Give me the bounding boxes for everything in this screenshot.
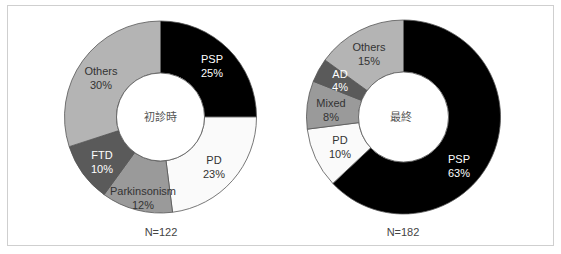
right-n-label: N=182	[387, 226, 420, 238]
right-mixed-name: Mixed	[316, 97, 345, 109]
left-parkinsonism-pct: 12%	[132, 199, 154, 211]
left-psp-name: PSP	[201, 53, 223, 65]
right-psp-name: PSP	[448, 153, 470, 165]
left-parkinsonism-name: Parkinsonism	[110, 185, 176, 197]
right-psp-pct: 63%	[448, 167, 470, 179]
left-psp-pct: 25%	[201, 67, 223, 79]
right-others-pct: 15%	[358, 55, 380, 67]
donut-charts: PSP 25% PD 23% Parkinsonism 12% FTD 10% …	[0, 0, 561, 254]
left-pd-pct: 23%	[203, 168, 225, 180]
left-center-label: 初診時	[144, 110, 177, 123]
left-pd-name: PD	[206, 154, 221, 166]
left-n-label: N=122	[145, 226, 178, 238]
right-pd-name: PD	[332, 134, 347, 146]
left-others-pct: 30%	[90, 79, 112, 91]
right-pd-pct: 10%	[329, 148, 351, 160]
left-ftd-name: FTD	[91, 149, 112, 161]
left-ftd-pct: 10%	[91, 163, 113, 175]
right-mixed-pct: 8%	[323, 111, 339, 123]
right-center-label: 最終	[390, 110, 412, 123]
right-ad-pct: 4%	[332, 81, 348, 93]
right-others-name: Others	[352, 41, 386, 53]
right-ad-name: AD	[332, 68, 347, 80]
left-others-name: Others	[84, 65, 118, 77]
